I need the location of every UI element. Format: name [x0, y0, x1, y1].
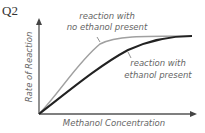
y-axis-label: Rate of Reaction: [24, 32, 34, 103]
leader-line-no-ethanol: [97, 37, 100, 42]
x-axis-arrow-icon: [190, 111, 197, 117]
label-ethanol-line2: ethanol present: [124, 70, 192, 80]
rate-chart: reaction with no ethanol present reactio…: [0, 0, 205, 133]
label-no-ethanol-line1: reaction with: [79, 11, 135, 21]
y-axis-arrow-icon: [36, 18, 42, 25]
x-axis-label: Methanol Concentration: [63, 118, 165, 128]
label-no-ethanol-line2: no ethanol present: [67, 22, 148, 32]
label-ethanol-line1: reaction with: [130, 58, 186, 68]
